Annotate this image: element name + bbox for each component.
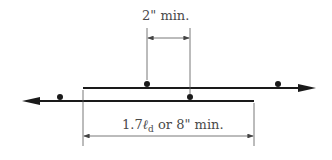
bar-dot — [57, 94, 63, 100]
right-arrowhead-icon — [298, 84, 316, 92]
bar-dot — [275, 81, 281, 87]
bottom-dimension-label: 1.7ℓd or 8" min. — [122, 117, 224, 134]
lap-factor: 1.7 — [122, 117, 143, 132]
lap-minimum-text: or 8" min. — [154, 117, 224, 132]
upper-bar — [83, 84, 316, 92]
top-dimension — [147, 28, 190, 94]
lap-splice-diagram — [0, 0, 332, 160]
lower-bar — [22, 97, 254, 105]
bar-dot — [144, 81, 150, 87]
left-arrowhead-icon — [22, 97, 40, 105]
top-dimension-label: 2" min. — [142, 8, 189, 23]
bar-dot — [187, 94, 193, 100]
